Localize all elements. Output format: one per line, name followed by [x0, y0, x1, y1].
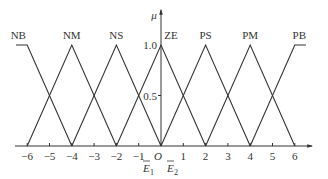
x-tick-label: −1 [133, 150, 145, 162]
curve-pm [206, 45, 295, 146]
svg-text:E: E [142, 162, 150, 174]
x-tick-label: 2 [203, 150, 209, 162]
svg-text:2: 2 [174, 168, 178, 177]
x-tick-label: −5 [44, 150, 56, 162]
series-label-pm: PM [242, 29, 258, 41]
series-label-pb: PB [293, 29, 306, 41]
curve-nb [16, 45, 72, 146]
x-tick-label: −2 [111, 150, 123, 162]
e1-bar-label: E1 [142, 161, 154, 177]
series-label-ns: NS [109, 29, 123, 41]
e2-bar-label: E2 [166, 161, 178, 177]
x-tick-label: 4 [247, 150, 253, 162]
svg-text:E: E [166, 162, 174, 174]
curve-pb [250, 45, 306, 146]
x-tick-label: −4 [66, 150, 78, 162]
y-tick-1: 1.0 [143, 39, 157, 51]
x-tick-label: −6 [21, 150, 33, 162]
series-label-nb: NB [11, 29, 26, 41]
svg-text:1: 1 [150, 168, 154, 177]
x-tick-label: 3 [225, 150, 231, 162]
x-tick-label: 6 [292, 150, 298, 162]
y-tick-half: 0.5 [143, 90, 157, 102]
x-tick-label: O [154, 150, 162, 162]
y-axis-label-mu: μ [150, 9, 157, 21]
series-label-ps: PS [199, 29, 211, 41]
x-tick-label: 1 [181, 150, 187, 162]
membership-function-chart: −6−5−4−3−2−1O123456 NBNMNSZEPSPMPB1.00.5… [0, 0, 328, 179]
curve-nm [27, 45, 116, 146]
x-tick-label: 5 [270, 150, 276, 162]
x-tick-label: −3 [88, 150, 100, 162]
series-label-ze: ZE [164, 29, 178, 41]
series-label-nm: NM [63, 29, 81, 41]
curve-ps [161, 45, 250, 146]
